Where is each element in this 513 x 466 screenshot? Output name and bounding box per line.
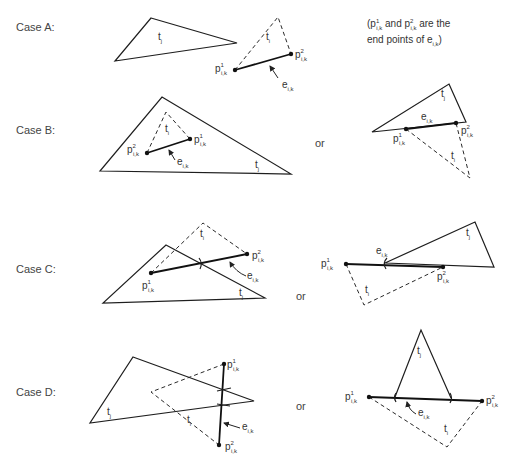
case-c: Case C: tj ti p1i,k p2i,k ei,k or tj ei,…	[16, 222, 494, 305]
point-p1	[404, 127, 408, 131]
p2-label: p2i,k	[127, 143, 140, 157]
ti-label: ti	[266, 31, 270, 44]
point-p1	[233, 68, 237, 72]
p2-label: p2i,k	[437, 270, 450, 284]
arrow-icon	[407, 402, 416, 414]
case-b-label: Case B:	[16, 124, 55, 136]
point-p1	[222, 362, 226, 366]
arrow-icon	[224, 423, 240, 428]
e-label: ei,k	[376, 245, 389, 258]
ti-label: ti	[165, 123, 169, 136]
point-p2	[441, 265, 445, 269]
point-p2	[217, 443, 221, 447]
note-line-1: (p1i,k and p2i,k are the	[367, 18, 451, 31]
e-label: ei,k	[242, 421, 255, 434]
arrow-icon	[230, 262, 246, 276]
triangle-tj	[115, 18, 237, 61]
or-label: or	[315, 137, 325, 149]
ti-label: ti	[187, 414, 191, 427]
case-b: Case B: tj ti p1i,k p2i,k ei,k or tj ei,…	[16, 84, 474, 178]
point-p1	[188, 137, 192, 141]
arrow-icon	[270, 66, 278, 78]
tj-label: tj	[158, 31, 162, 44]
edge-eik	[369, 397, 482, 401]
edge-eik	[151, 254, 247, 273]
point-p2	[480, 399, 484, 403]
triangle-tj	[395, 330, 451, 398]
triangle-ti-dashed	[151, 364, 224, 445]
tj-label: tj	[255, 159, 259, 172]
p1-label: p1i,k	[194, 133, 207, 147]
triangle-tj	[372, 84, 466, 132]
p1-label: p1i,k	[142, 279, 155, 293]
case-a-label: Case A:	[16, 21, 55, 33]
p1-label: p1i,k	[215, 62, 228, 76]
or-label: or	[296, 290, 306, 302]
p2-label: p2i,k	[486, 394, 499, 408]
e-label: ei,k	[282, 79, 295, 92]
ti-label: ti	[444, 423, 448, 436]
p1-label: p1i,k	[345, 390, 358, 404]
arrow-icon	[169, 150, 175, 160]
triangle-edge-cases-diagram: Case A: tj ti p1i,k p2i,k ei,k (p1i,k an…	[0, 0, 513, 466]
p2-label: p2i,k	[461, 124, 474, 138]
p2-label: p2i,k	[225, 440, 238, 454]
case-d-label: Case D:	[16, 386, 56, 398]
ti-label: ti	[451, 150, 455, 163]
point-p2	[454, 121, 458, 125]
edge-eik	[147, 139, 190, 153]
tj-label: tj	[417, 345, 421, 358]
e-label: ei,k	[418, 407, 431, 420]
tj-label: tj	[441, 88, 445, 101]
point-p2	[145, 151, 149, 155]
case-c-label: Case C:	[16, 263, 56, 275]
point-p1	[149, 271, 153, 275]
note-line-2: end points of ei,k)	[367, 34, 442, 47]
p1-label: p1i,k	[393, 132, 406, 146]
triangle-ti-dashed	[346, 264, 443, 305]
triangle-ti-dashed	[369, 397, 482, 447]
point-p1	[367, 395, 371, 399]
edge-eik	[235, 54, 291, 70]
case-d: Case D: tj ti p1i,k p2i,k ei,k or tj p1i…	[16, 330, 499, 454]
e-label: ei,k	[421, 111, 434, 124]
point-p2	[289, 52, 293, 56]
e-label: ei,k	[177, 156, 190, 169]
p2-label: p2i,k	[295, 48, 308, 62]
ti-label: ti	[365, 284, 369, 297]
tj-label: tj	[107, 406, 111, 419]
or-label: or	[296, 400, 306, 412]
p1-label: p1i,k	[227, 358, 240, 372]
p2-label: p2i,k	[252, 249, 265, 263]
point-p2	[245, 252, 249, 256]
p1-label: p1i,k	[321, 257, 334, 271]
tj-label: tj	[466, 227, 470, 240]
triangle-tj	[385, 222, 494, 267]
e-label: ei,k	[247, 270, 260, 283]
case-a: Case A: tj ti p1i,k p2i,k ei,k (p1i,k an…	[16, 17, 451, 92]
tj-label: tj	[239, 287, 243, 300]
point-p1	[344, 262, 348, 266]
ti-label: ti	[200, 228, 204, 241]
